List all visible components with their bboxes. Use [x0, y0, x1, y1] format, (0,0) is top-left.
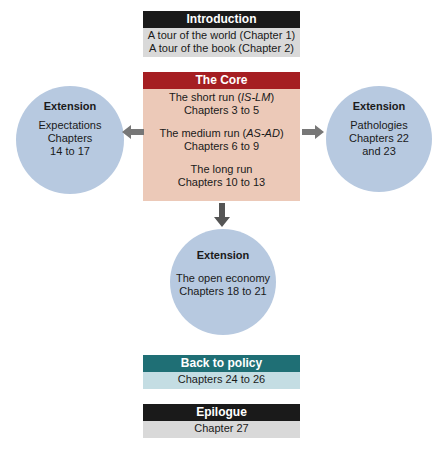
introduction-box: Introduction A tour of the world (Chapte… — [143, 11, 300, 57]
core-box: The Core The short run (IS-LM) Chapters … — [143, 72, 300, 201]
extension-pathologies: Extension Pathologies Chapters 22 and 23 — [326, 86, 432, 192]
extension-title: Extension — [353, 100, 406, 113]
extension-open-economy: Extension The open economy Chapters 18 t… — [170, 229, 276, 335]
epilogue-header: Epilogue — [143, 404, 300, 421]
core-medium-run-chapters: Chapters 6 to 9 — [143, 140, 300, 153]
introduction-header: Introduction — [143, 11, 300, 28]
core-short-run-chapters: Chapters 3 to 5 — [143, 104, 300, 117]
arrow-down-icon — [214, 203, 230, 227]
epilogue-box: Epilogue Chapter 27 — [143, 404, 300, 438]
introduction-line-1: A tour of the world (Chapter 1) — [143, 29, 300, 42]
core-header: The Core — [143, 72, 300, 89]
introduction-body: A tour of the world (Chapter 1) A tour o… — [143, 28, 300, 57]
core-medium-run: The medium run (AS-AD) — [143, 127, 300, 140]
back-to-policy-box: Back to policy Chapters 24 to 26 — [143, 355, 300, 389]
arrow-left-icon — [122, 125, 144, 139]
core-body: The short run (IS-LM) Chapters 3 to 5 Th… — [143, 89, 300, 201]
core-long-run: The long run — [143, 163, 300, 176]
core-short-run: The short run (IS-LM) — [143, 91, 300, 104]
core-long-run-chapters: Chapters 10 to 13 — [143, 176, 300, 189]
back-to-policy-body: Chapters 24 to 26 — [143, 372, 300, 389]
arrow-right-icon — [302, 125, 324, 139]
extension-expectations: Extension Expectations Chapters 14 to 17 — [16, 86, 124, 194]
introduction-line-2: A tour of the book (Chapter 2) — [143, 42, 300, 55]
extension-title: Extension — [197, 249, 250, 262]
back-to-policy-header: Back to policy — [143, 355, 300, 372]
epilogue-body: Chapter 27 — [143, 421, 300, 438]
extension-title: Extension — [44, 100, 97, 113]
